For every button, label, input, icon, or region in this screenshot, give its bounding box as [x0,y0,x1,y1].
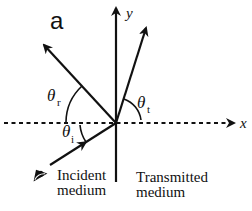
reflected-angle-arc [66,86,82,122]
transmitted-angle-label: θ t [137,93,150,115]
transmitted-medium-label: Transmitted medium [136,169,208,200]
svg-text:r: r [57,96,61,108]
svg-text:θ: θ [137,93,145,112]
reflected-ray [44,45,116,123]
panel-label: a [50,7,64,34]
reflected-angle-label: θ r [47,86,61,108]
svg-text:Transmitted: Transmitted [136,169,208,185]
refraction-diagram: a y x θ r θ i θ t Incident medium Transm… [0,0,252,211]
y-axis-label: y [124,5,133,21]
svg-text:θ: θ [47,86,55,105]
svg-text:i: i [71,133,74,145]
incident-angle-label: θ i [62,122,74,145]
svg-text:medium: medium [136,184,185,200]
x-axis-label: x [239,115,247,131]
svg-text:t: t [147,103,150,115]
incident-medium-label: Incident medium [57,167,107,198]
svg-text:θ: θ [62,122,70,141]
svg-text:medium: medium [57,182,106,198]
svg-text:Incident: Incident [57,167,107,183]
incident-angle-arc [80,125,86,142]
eye-icon [29,166,47,182]
